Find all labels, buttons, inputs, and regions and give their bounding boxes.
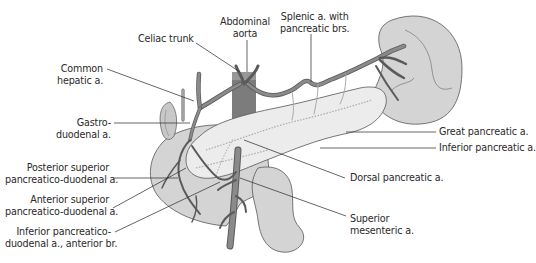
bile-duct bbox=[160, 102, 177, 139]
label-inferior-pancreaticoduodenal-anterior-branch: Inferior pancreatico- duodenal a., anter… bbox=[5, 226, 111, 249]
label-superior-mesenteric-artery: Superior mesenteric a. bbox=[350, 213, 414, 236]
label-abdominal-aorta: Abdominal aorta bbox=[220, 16, 270, 39]
label-dorsal-pancreatic-artery: Dorsal pancreatic a. bbox=[350, 172, 443, 184]
label-splenic-artery: Splenic a. with pancreatic brs. bbox=[280, 11, 349, 34]
label-posterior-superior-pancreaticoduodenal-artery: Posterior superior pancreatico-duodenal … bbox=[5, 162, 109, 185]
duodenum-lower-loop bbox=[252, 167, 303, 252]
label-inferior-pancreatic-artery: Inferior pancreatic a. bbox=[439, 142, 536, 154]
label-common-hepatic-artery: Common hepatic a. bbox=[57, 63, 103, 86]
label-celiac-trunk: Celiac trunk bbox=[138, 33, 194, 45]
label-great-pancreatic-artery: Great pancreatic a. bbox=[439, 126, 528, 138]
label-gastroduodenal-artery: Gastro- duodenal a. bbox=[55, 117, 111, 140]
label-anterior-superior-pancreaticoduodenal-artery: Anterior superior pancreatico-duodenal a… bbox=[5, 194, 109, 217]
spleen bbox=[372, 16, 462, 124]
